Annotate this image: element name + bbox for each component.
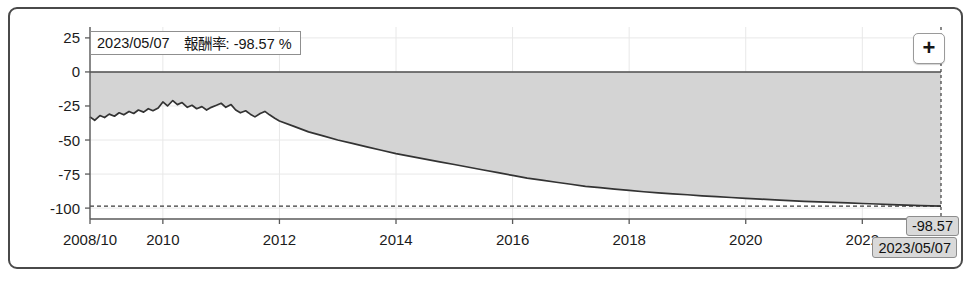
hover-tooltip: 2023/05/07 報酬率: -98.57 % xyxy=(90,31,301,55)
y-tick-label: -50 xyxy=(58,132,80,149)
x-tick-label: 2012 xyxy=(263,231,296,248)
x-tick-label: 2010 xyxy=(146,231,179,248)
y-tick-label: 0 xyxy=(72,63,80,80)
y-tick-label: -100 xyxy=(50,200,80,217)
x-axis-tick-labels: 2008/102010201220142016201820202022 xyxy=(63,231,879,248)
y-tick-label: -75 xyxy=(58,166,80,183)
y-tick-label: 25 xyxy=(63,29,80,46)
cursor-date-tag: 2023/05/07 xyxy=(872,237,957,258)
tooltip-value: 報酬率: -98.57 % xyxy=(184,32,292,53)
y-tick-label: -25 xyxy=(58,97,80,114)
y-axis-tick-labels: 250-25-50-75-100 xyxy=(50,29,80,216)
x-tick-label: 2008/10 xyxy=(63,231,117,248)
x-tick-label: 2020 xyxy=(729,231,762,248)
plus-icon: + xyxy=(923,37,936,59)
cursor-value-tag: -98.57 xyxy=(906,216,959,236)
x-tick-label: 2014 xyxy=(379,231,412,248)
zoom-in-button[interactable]: + xyxy=(913,33,945,64)
tooltip-date: 2023/05/07 xyxy=(97,35,170,51)
return-rate-chart-widget: 250-25-50-75-100 2008/102010201220142016… xyxy=(8,7,963,269)
x-tick-label: 2018 xyxy=(612,231,645,248)
x-tick-label: 2016 xyxy=(496,231,529,248)
